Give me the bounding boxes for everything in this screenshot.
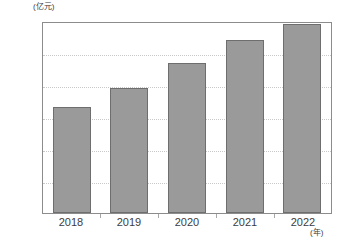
x-axis-labels: 2018 2019 2020 2021 2022 [42,216,332,236]
x-axis-unit-label: (年) [310,229,323,237]
bar-2022[interactable] [283,24,321,213]
x-tick-label-2019: 2019 [100,216,158,236]
x-tick-label-2020: 2020 [158,216,216,236]
x-tick-label-2021: 2021 [216,216,274,236]
plot-area [42,22,332,214]
bar-chart: (亿元) 0 10 20 30 40 50 60 2018 2019 2020 … [0,0,345,241]
bars-layer [43,23,331,213]
bar-2019[interactable] [110,88,148,213]
bar-2018[interactable] [53,107,91,213]
y-axis-unit-label: (亿元) [33,3,54,11]
bar-2020[interactable] [168,63,206,213]
x-tick-label-2018: 2018 [42,216,100,236]
bar-2021[interactable] [226,40,264,213]
